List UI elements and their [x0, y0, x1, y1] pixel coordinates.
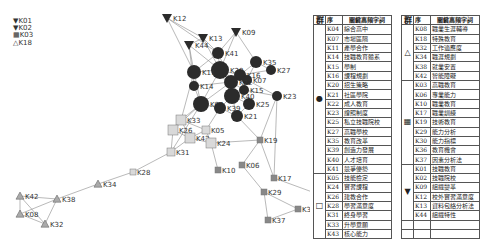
circle-node-icon [239, 85, 249, 95]
square-node-icon [176, 115, 186, 125]
table-row: K27高職學校 [314, 127, 392, 136]
keyword-text: 產學合作 [343, 43, 392, 52]
keyword-code: K23 [326, 108, 343, 117]
circle-node-icon [250, 56, 262, 68]
table-row: K21社區學院 [314, 90, 392, 99]
legend-item: △K18 [13, 40, 33, 47]
triangle-up-node-icon [16, 210, 24, 217]
group-symbol: ▦ [402, 81, 414, 165]
table-row: K02技職院校 [402, 174, 480, 183]
table-row: K07市場區隔 [314, 34, 392, 43]
grid-square-node-icon [215, 167, 221, 173]
node-label: K19 [264, 137, 278, 145]
keyword-text: 技職院校 [431, 174, 480, 183]
empty-row [402, 229, 480, 238]
table-row: K22成人教育 [314, 99, 392, 108]
keyword-text: 技職教育體系 [343, 53, 392, 62]
table-row: K25私立技職院校 [314, 118, 392, 127]
node-label: K12 [173, 15, 187, 23]
square-node-icon [168, 125, 178, 135]
node-label: K09 [242, 29, 256, 37]
node-label: K44 [195, 42, 209, 50]
triangle-down-node-icon [184, 41, 194, 50]
circle-node-icon [212, 47, 224, 59]
circle-node-icon [187, 65, 201, 79]
table-row: K15學制 [314, 62, 392, 71]
header-keyword: 關鍵高頻字詞 [431, 16, 480, 25]
table-row: K41競爭優勢 [314, 164, 392, 173]
table-row: K31終身學習 [314, 211, 392, 220]
header-keyword: 關鍵高頻字詞 [343, 16, 392, 25]
keyword-code: K21 [326, 90, 343, 99]
network-node-k30: K30 [295, 206, 310, 214]
table-row: K19技術教育 [402, 118, 480, 127]
network-node-k25: K25 [243, 98, 270, 110]
circle-node-icon [272, 91, 282, 101]
node-label: K10 [222, 167, 236, 175]
table-row: K28學習滿意度 [314, 201, 392, 210]
square-node-icon [202, 126, 210, 134]
circle-node-icon [243, 98, 255, 110]
keyword-text: 實習課程 [343, 183, 392, 192]
keyword-text: 特殊教育 [431, 34, 480, 43]
grid-square-node-icon [295, 206, 301, 212]
grid-square-node-icon [271, 175, 277, 181]
keyword-text: 招生策略 [343, 81, 392, 90]
keyword-code: K43 [326, 229, 343, 238]
circle-node-icon [193, 96, 209, 112]
keyword-code: K02 [414, 174, 431, 183]
table-row: K43核心能力 [314, 229, 392, 238]
network-node-k14: K14 [189, 81, 214, 91]
keyword-text: 資料包絡分析法 [431, 201, 480, 210]
keyword-code: K18 [414, 34, 431, 43]
node-label: K07 [253, 77, 267, 85]
node-label: K34 [103, 181, 117, 189]
table-row: K38就業安置 [402, 62, 480, 71]
keyword-code: K12 [414, 192, 431, 201]
network-node-k21: K21 [231, 110, 258, 122]
keyword-text: 市場區隔 [343, 34, 392, 43]
network-node-k28: K28 [130, 169, 151, 177]
network-node-k11: K11 [187, 65, 216, 79]
network-node-k29: K29 [261, 189, 282, 197]
keyword-code: K05 [326, 174, 343, 183]
keyword-text: 技術教育 [431, 118, 480, 127]
node-label: K13 [209, 35, 223, 43]
table-row: K06專業能力 [402, 90, 480, 99]
keyword-text: 綜合高中 [343, 25, 392, 34]
table-row: K16課程規劃 [314, 71, 392, 80]
keyword-text: 職業訓練 [431, 108, 480, 117]
keyword-text: 高職教育 [431, 81, 480, 90]
keyword-code: K13 [414, 201, 431, 210]
circle-node-icon [231, 110, 243, 122]
circle-node-icon [189, 81, 199, 91]
keyword-text: 技職教育 [431, 164, 480, 173]
keyword-code: K17 [414, 108, 431, 117]
keyword-text: 教育機會 [431, 146, 480, 155]
grid-square-node-icon [261, 189, 267, 195]
keyword-text: 就業安置 [431, 62, 480, 71]
table-row: K12校外實習滿意度 [402, 192, 480, 201]
grid-square-node-icon [239, 162, 245, 168]
keyword-code: K24 [326, 183, 343, 192]
network-node-k17: K17 [271, 175, 292, 183]
keyword-code: K14 [326, 53, 343, 62]
keyword-text: 私立技職院校 [343, 118, 392, 127]
keyword-text: 技能檢定 [343, 174, 392, 183]
table-row: △K08職業生涯輔導 [402, 25, 480, 34]
network-edge [181, 72, 194, 120]
table-row: K20招生策略 [314, 81, 392, 90]
keyword-text: 專業能力 [431, 90, 480, 99]
keyword-code: K39 [326, 146, 343, 155]
table-row: K42智能障礙 [402, 71, 480, 80]
square-node-icon [206, 138, 216, 148]
keyword-text: 成人教育 [343, 99, 392, 108]
keyword-code: K06 [414, 90, 431, 99]
keyword-code: K22 [326, 99, 343, 108]
node-label: K31 [176, 149, 190, 157]
table-row: K17職業訓練 [402, 108, 480, 117]
group-symbol: ● [314, 25, 326, 174]
node-label: K25 [256, 101, 270, 109]
keyword-table-left: 群 序 關鍵高頻字詞 ●K04綜合高中K07市場區隔K11產學合作K14技職教育… [313, 15, 392, 239]
keyword-code: K11 [326, 43, 343, 52]
